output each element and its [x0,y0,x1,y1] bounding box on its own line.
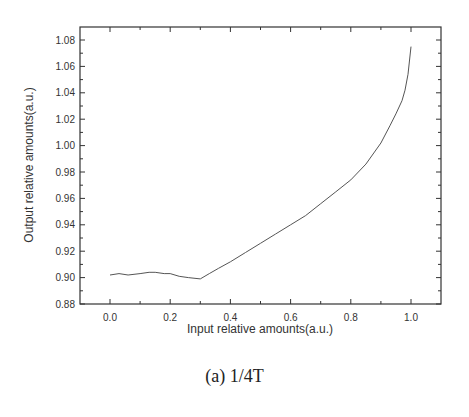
x-tick-label: 0.2 [163,312,177,323]
y-tick-label: 0.94 [56,219,76,230]
y-tick-label: 1.06 [56,61,76,72]
line-chart: 0.880.900.920.940.960.981.001.021.041.06… [0,0,469,360]
figure-caption: (a) 1/4T [0,366,469,387]
x-axis: 0.00.20.40.60.81.0 [103,27,418,323]
plot-frame [80,27,441,304]
y-tick-label: 0.88 [56,299,76,310]
x-tick-label: 0.8 [344,312,358,323]
y-tick-label: 1.08 [56,35,76,46]
x-tick-label: 1.0 [404,312,418,323]
y-tick-label: 1.04 [56,87,76,98]
y-tick-label: 0.90 [56,272,76,283]
y-tick-label: 1.02 [56,114,76,125]
data-line [110,47,411,279]
y-tick-label: 0.96 [56,193,76,204]
x-axis-title: Input relative amounts(a.u.) [187,322,333,336]
y-tick-label: 0.92 [56,246,76,257]
y-tick-label: 0.98 [56,167,76,178]
x-tick-label: 0.0 [103,312,117,323]
y-axis: 0.880.900.920.940.960.981.001.021.041.06… [56,35,441,310]
y-axis-title: Output relative amounts(a.u.) [22,87,36,242]
y-tick-label: 1.00 [56,140,76,151]
